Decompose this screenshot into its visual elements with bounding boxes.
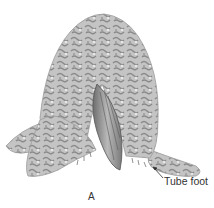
panel-label: A — [88, 191, 95, 202]
tube-foot-label: Tube foot — [164, 175, 208, 187]
sea-star-arm-right — [148, 150, 200, 176]
